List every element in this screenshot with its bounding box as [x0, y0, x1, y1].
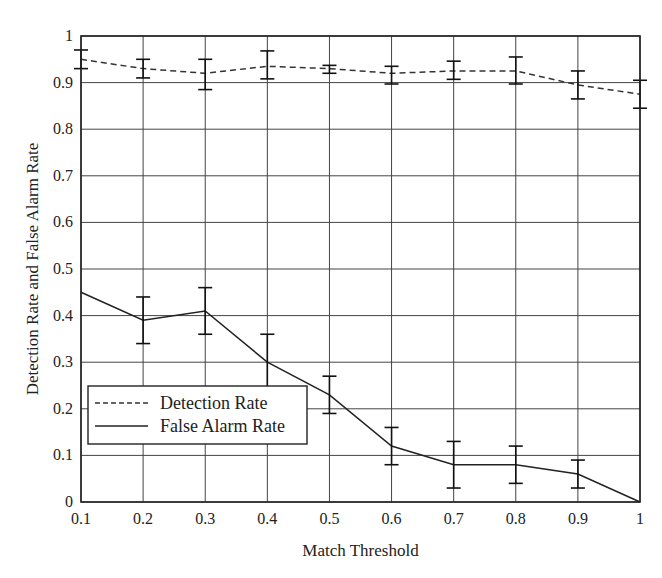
x-tick-label: 0.6 — [382, 510, 402, 527]
line-chart: 00.10.20.30.40.50.60.70.80.91 0.10.20.30… — [0, 0, 662, 578]
x-tick-label: 0.8 — [506, 510, 526, 527]
y-tick-label: 0.7 — [53, 167, 73, 184]
x-tick-label: 0.9 — [568, 510, 588, 527]
x-tick-label: 0.1 — [71, 510, 91, 527]
y-tick-label: 1 — [65, 27, 73, 44]
legend-label-detection-rate: Detection Rate — [160, 393, 267, 413]
y-tick-label: 0 — [65, 493, 73, 510]
x-axis-label: Match Threshold — [302, 541, 419, 560]
y-axis-label: Detection Rate and False Alarm Rate — [23, 143, 42, 396]
y-tick-label: 0.6 — [53, 213, 73, 230]
series-line-detection-rate — [81, 59, 640, 94]
x-tick-label: 0.2 — [133, 510, 153, 527]
x-tick-label: 1 — [636, 510, 644, 527]
x-tick-label: 0.7 — [444, 510, 464, 527]
y-tick-label: 0.5 — [53, 260, 73, 277]
y-tick-label: 0.1 — [53, 446, 73, 463]
x-tick-label: 0.4 — [257, 510, 277, 527]
x-tick-labels: 0.10.20.30.40.50.60.70.80.91 — [71, 510, 644, 527]
y-tick-label: 0.9 — [53, 74, 73, 91]
y-tick-label: 0.2 — [53, 400, 73, 417]
y-tick-labels: 00.10.20.30.40.50.60.70.80.91 — [53, 27, 73, 510]
x-tick-label: 0.3 — [195, 510, 215, 527]
y-tick-label: 0.4 — [53, 307, 73, 324]
y-tick-label: 0.8 — [53, 120, 73, 137]
x-tick-label: 0.5 — [319, 510, 339, 527]
legend: Detection Rate False Alarm Rate — [88, 386, 307, 444]
y-tick-label: 0.3 — [53, 353, 73, 370]
legend-label-false-alarm-rate: False Alarm Rate — [160, 416, 285, 436]
